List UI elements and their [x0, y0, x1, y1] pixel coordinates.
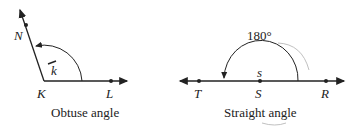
label-180-degrees: 180°	[247, 28, 272, 43]
angle-diagrams: N k K L Obtuse angle 180° s T S R Straig…	[0, 0, 360, 130]
straight-angle-figure: 180° s T S R Straight angle	[180, 28, 344, 125]
pencil-mark-arc	[278, 43, 309, 70]
pencil-mark-underline	[262, 123, 286, 125]
label-s-vertex: S	[255, 86, 262, 101]
label-k-vertex: K	[36, 86, 47, 101]
label-l: L	[105, 86, 113, 101]
obtuse-angle-figure: N k K L Obtuse angle	[13, 10, 127, 120]
caption-straight: Straight angle	[224, 105, 297, 120]
point-r	[324, 79, 328, 83]
point-l	[109, 79, 113, 83]
label-t: T	[194, 86, 202, 101]
label-n: N	[13, 28, 24, 43]
label-s-angle: s	[257, 65, 262, 80]
label-r: R	[320, 86, 329, 101]
angle-arc-k	[36, 45, 82, 81]
point-t	[197, 79, 201, 83]
caption-obtuse: Obtuse angle	[51, 105, 119, 120]
point-n	[24, 23, 28, 27]
label-k-angle: k	[51, 63, 57, 78]
